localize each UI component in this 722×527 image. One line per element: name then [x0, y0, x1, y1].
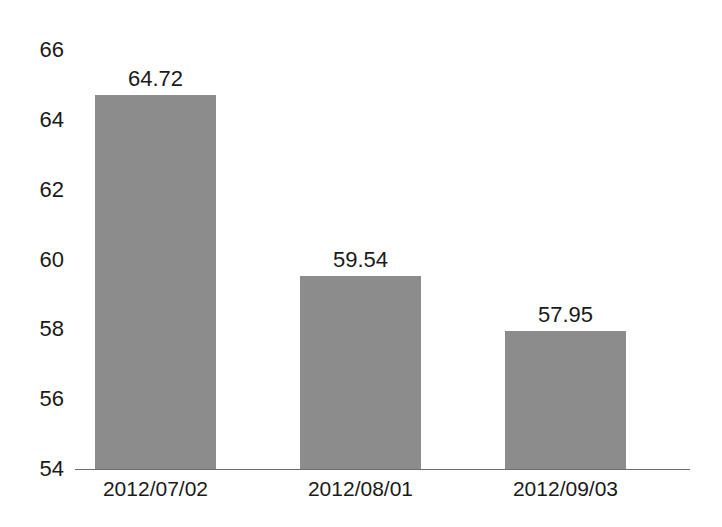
x-axis-tick-label: 2012/08/01 — [308, 472, 413, 499]
bar-value-label: 57.95 — [538, 304, 593, 326]
y-axis-tick-label: 56 — [6, 388, 64, 410]
bar-value-label: 64.72 — [128, 68, 183, 90]
plot-area: 64.7259.5457.95 — [75, 50, 690, 469]
y-axis-tick-label: 58 — [6, 318, 64, 340]
bar-value-label: 59.54 — [333, 249, 388, 271]
x-axis-line — [75, 469, 690, 470]
x-axis-tick-label: 2012/07/02 — [103, 472, 208, 499]
bar: 57.95 — [505, 331, 626, 469]
x-axis-tick-label: 2012/09/03 — [513, 472, 618, 499]
bar: 64.72 — [95, 95, 216, 469]
y-axis-tick-label: 64 — [6, 109, 64, 131]
y-axis-tick-label: 62 — [6, 179, 64, 201]
y-axis-tick-label: 60 — [6, 249, 64, 271]
y-axis-tick-label: 66 — [6, 39, 64, 61]
bar: 59.54 — [300, 276, 421, 469]
x-axis: 2012/07/022012/08/012012/09/03 — [75, 472, 690, 512]
y-axis-tick-label: 54 — [6, 458, 64, 480]
y-axis: 66646260585654 — [0, 50, 64, 469]
bar-chart: 66646260585654 64.7259.5457.95 2012/07/0… — [0, 0, 722, 527]
